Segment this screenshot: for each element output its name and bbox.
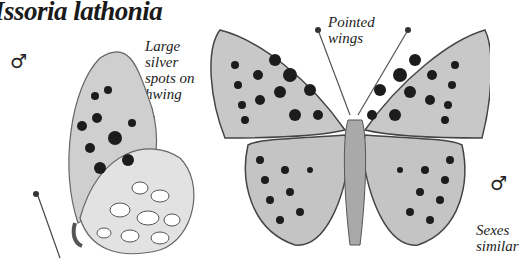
species-title: Issoria lathonia <box>0 0 162 27</box>
butterfly-side-view-illustration <box>20 28 200 263</box>
male-symbol-icon: ♂ <box>490 172 507 194</box>
butterfly-upperside-illustration <box>200 20 490 260</box>
